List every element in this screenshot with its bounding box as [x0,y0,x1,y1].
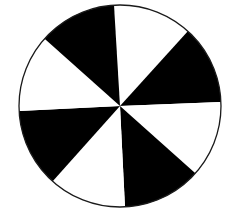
sector-disc [0,0,238,219]
figure-canvas [0,0,238,219]
sectors-group [19,5,221,207]
